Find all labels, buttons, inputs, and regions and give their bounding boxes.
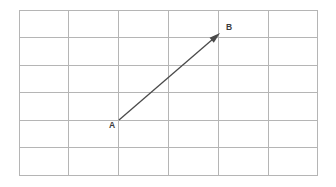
point-label-b: B bbox=[226, 22, 232, 32]
vector-diagram-canvas: A B bbox=[0, 0, 336, 187]
point-label-a: A bbox=[109, 120, 115, 130]
vector-diagram-figure: A B bbox=[0, 0, 336, 187]
